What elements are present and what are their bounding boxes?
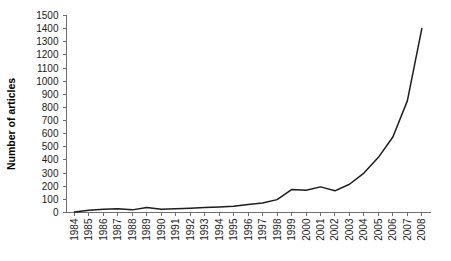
- x-axis-tick-label: 1989: [141, 218, 152, 241]
- x-axis-tick-label: 1984: [69, 218, 80, 241]
- x-axis-tick-label: 2001: [315, 218, 326, 241]
- x-axis-tick-label: 1991: [170, 218, 181, 241]
- y-axis-tick-label: 200: [42, 181, 59, 192]
- y-axis-tick-label: 0: [53, 207, 59, 218]
- y-axis-tick-label: 800: [42, 102, 59, 113]
- y-axis-tick-label: 1100: [37, 63, 59, 74]
- x-axis-tick-label: 1998: [272, 218, 283, 241]
- y-axis-tick-label: 500: [42, 141, 59, 152]
- x-axis-tick-label: 1992: [185, 218, 196, 241]
- x-axis-tick-label: 1999: [286, 218, 297, 241]
- x-axis-tick-label: 2002: [329, 218, 340, 241]
- y-axis-tick-label: 600: [42, 128, 59, 139]
- x-axis-tick-label: 2003: [344, 218, 355, 241]
- x-axis-tick-label: 1985: [83, 218, 94, 241]
- y-axis-tick-labels: 0100200300400500600700800900100011001200…: [36, 10, 59, 218]
- x-axis-tick-label: 2007: [402, 218, 413, 241]
- y-axis-tick-label: 1000: [36, 76, 59, 87]
- x-axis-tick-label: 2000: [301, 218, 312, 241]
- y-axis-tick-label: 100: [42, 194, 59, 205]
- x-axis-tick-label: 2004: [358, 218, 369, 241]
- x-axis-tick-label: 1990: [156, 218, 167, 241]
- y-axis-label-text: Number of articles: [5, 78, 17, 170]
- x-axis-tick-label: 2008: [416, 218, 427, 241]
- y-axis-tick-label: 300: [42, 168, 59, 179]
- y-axis-label: Number of articles: [5, 78, 17, 170]
- x-axis-tick-label: 2006: [387, 218, 398, 241]
- x-axis-tick-label: 1994: [214, 218, 225, 241]
- x-axis-tick-label: 1986: [98, 218, 109, 241]
- y-axis-tick-label: 700: [42, 115, 59, 126]
- x-axis-tick-label: 1996: [243, 218, 254, 241]
- y-axis-tick-marks: [63, 16, 67, 213]
- x-axis-tick-label: 1988: [127, 218, 138, 241]
- line-chart: Number of articles 010020030040050060070…: [0, 0, 451, 261]
- y-axis-tick-label: 400: [42, 154, 59, 165]
- y-axis-tick-label: 1400: [36, 23, 59, 34]
- x-axis-tick-label: 1993: [199, 218, 210, 241]
- y-axis-tick-label: 1500: [36, 10, 59, 21]
- x-axis-tick-label: 1997: [257, 218, 268, 241]
- y-axis-tick-label: 1300: [36, 36, 59, 47]
- x-axis-tick-label: 1995: [228, 218, 239, 241]
- x-axis-tick-label: 1987: [112, 218, 123, 241]
- x-axis-tick-label: 2005: [373, 218, 384, 241]
- x-axis-tick-labels: 1984198519861987198819891990199119921993…: [69, 218, 427, 241]
- y-axis-tick-label: 1200: [36, 49, 59, 60]
- chart-container: Number of articles 010020030040050060070…: [0, 0, 451, 261]
- data-series-line: [74, 29, 421, 212]
- y-axis-tick-label: 900: [42, 89, 59, 100]
